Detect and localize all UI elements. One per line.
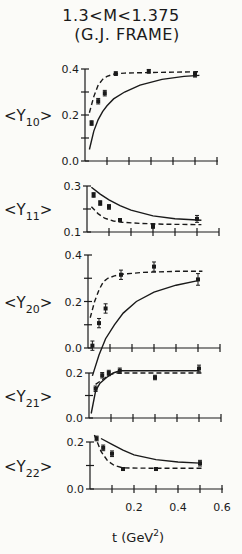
y-axis-label: <Y10> [4, 107, 52, 129]
data-point [90, 121, 94, 126]
data-point [104, 304, 108, 313]
y-tick-label: 0.0 [66, 412, 84, 425]
solid-curve [92, 281, 198, 376]
y-tick-label: 0.4 [62, 63, 80, 76]
data-point [100, 373, 104, 378]
y-axis-label: <Y11> [4, 201, 52, 223]
data-point [96, 98, 100, 104]
data-point [107, 370, 111, 375]
data-point [121, 467, 125, 471]
dashed-curve [96, 373, 204, 384]
data-point [153, 375, 157, 380]
y-tick-label: 0.1 [64, 226, 82, 239]
data-point [107, 205, 111, 210]
data-point [94, 386, 98, 391]
x-tick-label: 0.2 [125, 501, 143, 514]
y-axis-label: <Y22> [4, 458, 52, 480]
y-tick-label: 0.0 [65, 342, 83, 355]
data-point [151, 224, 155, 229]
solid-curve [91, 187, 201, 220]
y-tick-label: 0.2 [67, 436, 85, 449]
panel-y22: 0.00.2<Y22>0.20.40.6 [4, 435, 231, 514]
data-point [101, 445, 105, 451]
x-tick-label: 0.4 [169, 501, 187, 514]
panel-y21: 0.00.2<Y21> [4, 365, 221, 425]
solid-curve [91, 371, 199, 414]
data-point [118, 218, 122, 222]
data-point [119, 270, 123, 279]
x-tick-label: 0.6 [213, 501, 231, 514]
data-point [147, 69, 151, 73]
y-tick-label: 0.3 [64, 180, 82, 193]
x-axis-title: t (GeV2) [112, 528, 164, 545]
y-tick-label: 0.2 [66, 367, 84, 380]
data-point [98, 201, 102, 206]
y-axis-label: <Y21> [4, 388, 52, 410]
y-axis-label: <Y20> [4, 294, 52, 316]
y-tick-label: 0.0 [62, 155, 80, 168]
panel-y11: 0.10.3<Y11> [4, 180, 219, 239]
data-point [198, 460, 202, 466]
solid-curve [101, 439, 200, 464]
dashed-curve [90, 271, 202, 318]
panel-y20: 0.00.20.4<Y20> [4, 249, 220, 376]
data-point [193, 72, 197, 77]
y-tick-label: 0.0 [67, 483, 85, 496]
data-point [152, 262, 156, 271]
x-axis-label: t (GeV2) [112, 528, 164, 545]
data-point [118, 368, 122, 373]
data-point [195, 215, 199, 222]
solid-curve [89, 75, 199, 149]
data-point [110, 451, 114, 457]
panel-y10: 0.00.20.4<Y10> [4, 63, 218, 168]
data-point [196, 274, 200, 286]
data-point [154, 467, 158, 471]
y-tick-label: 0.2 [62, 109, 80, 122]
data-point [92, 193, 96, 198]
data-point [103, 90, 107, 96]
data-point [114, 72, 118, 76]
y-tick-label: 0.2 [65, 296, 83, 309]
data-point [90, 341, 94, 350]
dashed-curve [94, 435, 204, 468]
data-point [95, 436, 99, 441]
y-tick-label: 0.4 [65, 249, 83, 262]
chart-figure: 0.00.20.4<Y10>0.10.3<Y11>0.00.20.4<Y20>0… [0, 0, 242, 554]
data-point [97, 318, 101, 327]
